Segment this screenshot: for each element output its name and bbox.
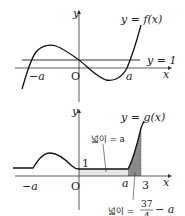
tick-a: a [122,177,129,190]
area2-label-denominator: 4 [144,211,150,216]
tick-three: 3 [142,179,149,192]
curve-g [13,121,144,169]
tick-neg-a: −a [29,70,45,83]
shaded-region-light [79,169,128,176]
area1-label: 넓이 = a [91,134,125,144]
value-one-label: 1 [82,157,89,170]
diagram: y y = f(x) y = 1 x −a O a y y = g(x) 넓이 … [0,0,185,216]
area2-label-prefix: 넓이 = [108,206,134,216]
graph-g: y y = g(x) 넓이 = a 1 x −a O a 3 넓이 = 37 4… [13,105,174,216]
graph-f: y y = f(x) y = 1 x −a O a [15,7,176,102]
x-axis-label: x [163,68,170,81]
y-axis-label: y [71,105,79,118]
tick-a: a [126,70,133,83]
area1-pointer [103,144,106,172]
area2-label-suffix: − a [155,203,174,216]
origin-label: O [71,70,80,83]
x-axis-label: x [163,176,170,189]
y-axis-label: y [72,7,80,20]
tick-neg-a: −a [22,180,38,193]
curve-f-label: y = f(x) [120,13,162,26]
line-y1-label: y = 1 [146,54,176,67]
area2-label-numerator: 37 [141,199,153,209]
origin-label: O [71,180,80,193]
curve-g-label: y = g(x) [120,111,165,124]
